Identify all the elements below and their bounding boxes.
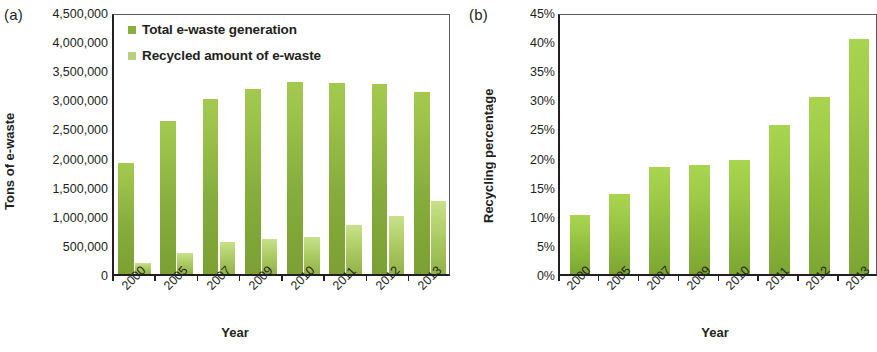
panel-b-x-tick-mark <box>718 276 720 281</box>
bar-recycling-percentage-2009 <box>689 165 710 274</box>
panel-b-x-tick-mark <box>837 276 839 281</box>
panel-b-y-tick-label: 5% <box>503 241 555 253</box>
bar-total-e-waste-generation-2005 <box>160 121 176 274</box>
figure-two-panel-ewaste-charts: (a) Tons of e-waste Year 4,500,0004,000,… <box>0 0 877 352</box>
panel-a-x-tick-mark <box>366 276 368 281</box>
panel-a-legend: Total e-waste generation Recycled amount… <box>128 22 321 74</box>
bar-recycling-percentage-2005 <box>609 194 630 274</box>
bar-recycling-percentage-2013 <box>849 39 870 274</box>
panel-a-x-axis-label: Year <box>160 325 310 340</box>
panel-a-y-tick-label: 4,000,000 <box>22 37 108 49</box>
panel-b-x-tick-mark <box>678 276 680 281</box>
panel-a-x-tick-mark <box>112 276 114 281</box>
legend-label-recycled: Recycled amount of e-waste <box>142 48 321 63</box>
bar-recycling-percentage-2012 <box>809 97 830 274</box>
panel-a-y-tick-label: 2,000,000 <box>22 154 108 166</box>
panel-a-y-tick-label: 1,500,000 <box>22 183 108 195</box>
square-icon <box>128 26 136 34</box>
panel-b-y-tick-label: 25% <box>503 124 555 136</box>
bar-recycling-percentage-2011 <box>769 125 790 274</box>
legend-item-total: Total e-waste generation <box>128 22 321 37</box>
panel-b-y-tick-label: 45% <box>503 8 555 20</box>
bar-total-e-waste-generation-2012 <box>372 84 388 274</box>
panel-b-x-tick-mark <box>638 276 640 281</box>
panel-a-y-tick-label: 3,000,000 <box>22 95 108 107</box>
bar-total-e-waste-generation-2000 <box>118 163 134 274</box>
panel-a-y-tick-label: 0 <box>22 270 108 282</box>
bar-recycling-percentage-2007 <box>649 167 670 274</box>
panel-a: (a) Tons of e-waste Year 4,500,0004,000,… <box>0 0 440 352</box>
panel-b-y-tick-label: 40% <box>503 37 555 49</box>
panel-b-x-tick-mark <box>757 276 759 281</box>
bar-total-e-waste-generation-2010 <box>287 82 303 274</box>
panel-b-y-tick-label: 15% <box>503 183 555 195</box>
panel-b-y-tick-label: 20% <box>503 154 555 166</box>
panel-a-x-tick-mark <box>323 276 325 281</box>
panel-b-y-axis-label: Recycling percentage <box>481 58 496 254</box>
panel-b-y-tick-label: 35% <box>503 66 555 78</box>
panel-b-x-axis-label: Year <box>640 325 790 340</box>
panel-a-x-tick-mark <box>408 276 410 281</box>
panel-a-y-tick-label: 1,000,000 <box>22 212 108 224</box>
panel-a-x-tick-mark <box>154 276 156 281</box>
bar-total-e-waste-generation-2011 <box>329 83 345 274</box>
square-icon <box>128 52 136 60</box>
panel-a-y-tick-label: 4,500,000 <box>22 8 108 20</box>
bar-total-e-waste-generation-2007 <box>203 99 219 274</box>
panel-b-x-tick-mark <box>797 276 799 281</box>
panel-a-x-tick-mark <box>239 276 241 281</box>
panel-b-letter: (b) <box>469 6 488 23</box>
panel-b-y-tick-label: 0% <box>503 270 555 282</box>
panel-a-y-tick-label: 500,000 <box>22 241 108 253</box>
panel-a-letter: (a) <box>4 6 23 23</box>
panel-b-bars <box>560 15 876 274</box>
bar-total-e-waste-generation-2009 <box>245 89 261 274</box>
panel-a-y-axis-label: Tons of e-waste <box>2 88 17 234</box>
panel-b-x-tick-mark <box>558 276 560 281</box>
bar-recycling-percentage-2010 <box>729 160 750 274</box>
panel-b-plot-area <box>558 14 877 276</box>
panel-b-y-tick-label: 10% <box>503 212 555 224</box>
panel-b-x-tick-mark <box>598 276 600 281</box>
panel-a-x-tick-mark <box>197 276 199 281</box>
legend-item-recycled: Recycled amount of e-waste <box>128 48 321 63</box>
bar-total-e-waste-generation-2013 <box>414 92 430 274</box>
panel-a-x-tick-mark <box>281 276 283 281</box>
legend-label-total: Total e-waste generation <box>142 22 297 37</box>
panel-b-y-tick-label: 30% <box>503 95 555 107</box>
panel-a-y-tick-label: 2,500,000 <box>22 124 108 136</box>
panel-a-y-tick-label: 3,500,000 <box>22 66 108 78</box>
